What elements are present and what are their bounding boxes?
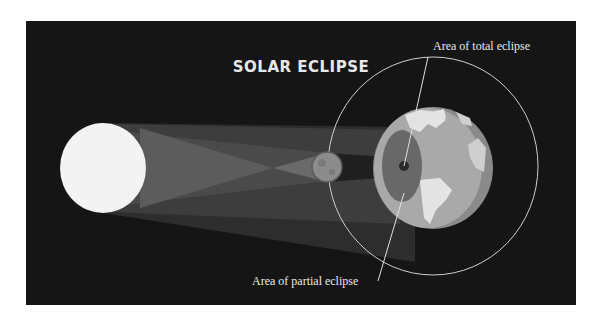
earth [373,107,493,229]
partial-eclipse-label: Area of partial eclipse [252,274,358,288]
sun [60,123,146,213]
diagram-title: SOLAR ECLIPSE [233,58,369,76]
moon-crater [318,159,326,167]
total-eclipse-label: Area of total eclipse [433,39,530,53]
solar-eclipse-diagram: SOLAR ECLIPSE Area of total eclipse Area… [0,0,602,322]
moon [312,152,342,182]
moon-crater [329,169,335,175]
